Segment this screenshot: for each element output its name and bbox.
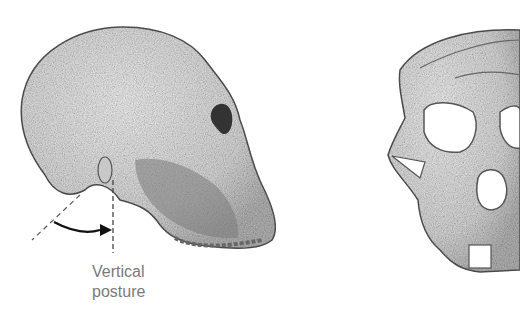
- arrow-right-icon: [100, 224, 112, 236]
- label-line-1: Vertical: [92, 262, 145, 282]
- vertical-posture-label: Vertical posture: [92, 262, 145, 302]
- label-line-2: posture: [92, 282, 145, 302]
- skull-illustration: [0, 0, 520, 330]
- frontal-skull: [388, 30, 520, 272]
